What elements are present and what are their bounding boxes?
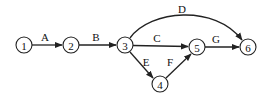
node-label-6: 6 (245, 42, 251, 54)
node-label-5: 5 (194, 42, 200, 54)
node-label-3: 3 (122, 40, 128, 52)
edge-label-c: C (153, 32, 160, 44)
edge-label-g: G (212, 33, 220, 45)
edge-c: C (133, 32, 188, 47)
node-5: 5 (189, 39, 205, 55)
edge-f: F (166, 54, 191, 78)
node-1: 1 (16, 37, 32, 53)
edge-b: B (79, 31, 116, 45)
network-diagram: A B C D E F G 1 2 3 4 5 (0, 0, 270, 101)
edge-g: G (205, 33, 239, 47)
node-label-2: 2 (68, 40, 74, 52)
edge-label-e: E (143, 56, 150, 68)
node-4: 4 (152, 76, 168, 92)
node-label-4: 4 (157, 79, 163, 91)
edge-label-d: D (178, 3, 186, 15)
node-6: 6 (240, 39, 256, 55)
node-label-1: 1 (21, 40, 27, 52)
node-3: 3 (117, 37, 133, 53)
edge-label-f: F (167, 56, 173, 68)
edge-d: D (130, 3, 242, 40)
edge-a: A (32, 31, 62, 45)
node-2: 2 (63, 37, 79, 53)
edge-e: E (130, 52, 153, 78)
edge-label-a: A (41, 31, 49, 43)
edge-label-b: B (92, 31, 99, 43)
